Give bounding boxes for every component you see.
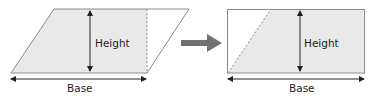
parallelogram-figure: Height Base [11, 9, 189, 94]
height-label: Height [95, 37, 130, 49]
base-label: Base [289, 82, 315, 94]
right-arrow-icon [181, 34, 222, 52]
rectangle-shaded [228, 9, 365, 73]
height-label: Height [304, 37, 339, 49]
rectangle-figure: Height Base [228, 9, 366, 94]
base-label: Base [67, 82, 93, 94]
area-diagram: Height Base Height Base [0, 0, 370, 96]
